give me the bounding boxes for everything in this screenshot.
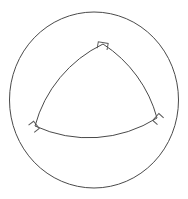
right-angle-marker-bottom-right — [153, 114, 164, 125]
right-angle-marker-bottom-left — [29, 121, 40, 132]
curved-triangle — [35, 44, 157, 138]
outer-circle — [10, 12, 179, 188]
geometry-figure-svg — [0, 0, 188, 199]
figure-canvas — [0, 0, 188, 199]
